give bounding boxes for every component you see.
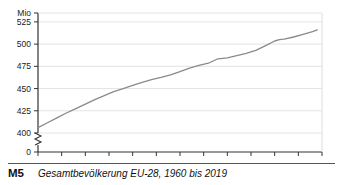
figure-m5: 0400425450475500525 19601965197019751980… (0, 0, 343, 185)
y-tick-label: 425 (17, 106, 31, 116)
y-tick-label: 400 (17, 128, 31, 138)
x-tick-label: 2010 (265, 158, 284, 160)
y-axis-break-icon (35, 133, 41, 145)
series-line-gesamtbevoelkerung (38, 30, 317, 128)
y-tick-label: 500 (17, 39, 31, 49)
y-tick-label: 450 (17, 84, 31, 94)
caption-title: Gesamtbevölkerung EU-28, 1960 bis 2019 (38, 168, 227, 179)
y-tick-label: 0 (26, 147, 31, 157)
x-tick-label: 1995 (194, 158, 213, 160)
x-tick-label: 1965 (52, 158, 71, 160)
axis-frame (38, 13, 322, 152)
y-axis-labels: 0400425450475500525 (17, 17, 31, 157)
chart-area: 0400425450475500525 19601965197019751980… (0, 0, 343, 160)
caption-key: M5 (8, 167, 24, 179)
gridlines (38, 22, 322, 133)
caption-divider (8, 163, 335, 164)
x-tick-label: 2020 (313, 158, 332, 160)
x-tick-label: 1990 (171, 158, 190, 160)
data-series-line (38, 30, 317, 128)
y-axis-unit-label: Mio (17, 8, 31, 18)
x-tick-label: 1975 (100, 158, 119, 160)
x-tick-label: 1985 (147, 158, 166, 160)
caption-row: M5 Gesamtbevölkerung EU-28, 1960 bis 201… (8, 167, 227, 179)
y-tick-label: 475 (17, 61, 31, 71)
y-tick-label: 525 (17, 17, 31, 27)
x-axis-labels: 1960196519701975198019851990199520002005… (29, 158, 332, 160)
x-tick-label: 1960 (29, 158, 48, 160)
x-tick-label: 1980 (123, 158, 142, 160)
x-axis-ticks (38, 152, 322, 156)
x-tick-label: 2015 (289, 158, 308, 160)
population-line-chart: 0400425450475500525 19601965197019751980… (0, 0, 343, 160)
figure-caption: M5 Gesamtbevölkerung EU-28, 1960 bis 201… (0, 163, 343, 185)
y-axis-unit-text: Mio (17, 8, 31, 18)
x-tick-label: 2005 (242, 158, 261, 160)
x-tick-label: 2000 (218, 158, 237, 160)
x-tick-label: 1970 (76, 158, 95, 160)
